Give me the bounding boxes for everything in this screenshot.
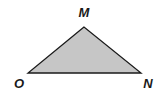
vertex-label-n: N [143, 76, 153, 91]
vertex-label-o: O [14, 76, 24, 91]
triangle-mon [28, 27, 141, 73]
triangle-diagram: M O N [0, 0, 162, 106]
vertex-label-m: M [79, 5, 91, 20]
